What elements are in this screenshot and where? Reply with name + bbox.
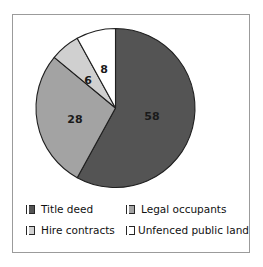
legend-label-title-deed: Title deed [41,204,93,215]
legend-row: Title deed Legal occupants [26,200,242,218]
chart-legend: Title deed Legal occupants Hire contract… [26,200,242,240]
legend-swatch-inner [27,205,29,226]
legend-swatch-inner [127,226,129,247]
legend-label-legal-occupants: Legal occupants [141,204,226,215]
pie-slice-value-label: 28 [67,113,82,126]
pie-slice-value-label: 58 [144,110,159,123]
legend-item-hire-contracts[interactable]: Hire contracts [26,225,126,236]
legend-swatch-inner [127,205,129,226]
legend-swatch-inner [27,226,29,247]
legend-item-unfenced-public-land[interactable]: Unfenced public land [126,225,242,236]
legend-swatch-title-deed [26,205,35,214]
legend-swatch-unfenced-public-land [126,226,135,235]
legend-label-unfenced-public-land: Unfenced public land [138,225,249,236]
legend-label-hire-contracts: Hire contracts [41,225,115,236]
pie-slices-group [36,29,195,188]
legend-item-title-deed[interactable]: Title deed [26,204,126,215]
legend-swatch-hire-contracts [26,226,35,235]
pie-chart-figure: 582868 Title deed Legal occupants [0,0,263,267]
legend-item-legal-occupants[interactable]: Legal occupants [126,204,242,215]
legend-swatch-legal-occupants [126,205,135,214]
pie-slice-value-label: 8 [100,63,108,76]
pie-slice-value-label: 6 [84,74,92,87]
legend-row: Hire contracts Unfenced public land [26,221,242,239]
